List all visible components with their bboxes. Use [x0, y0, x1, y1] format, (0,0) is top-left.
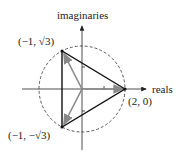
point-2-0: [124, 88, 127, 91]
label-neg1-sqrt3: (−1, √3): [18, 36, 54, 47]
real-axis-label: reals: [152, 84, 173, 95]
imaginary-axis-label: imaginaries: [57, 10, 108, 21]
point-neg1-negsqrt3: [61, 126, 64, 129]
label-2-0: (2, 0): [128, 96, 152, 107]
point-neg1-sqrt3: [61, 50, 64, 53]
label-neg1-negsqrt3: (−1, −√3): [8, 130, 50, 141]
vector-to-neg1-sqrt3: [64, 54, 82, 89]
vector-to-neg1-negsqrt3: [64, 89, 82, 124]
